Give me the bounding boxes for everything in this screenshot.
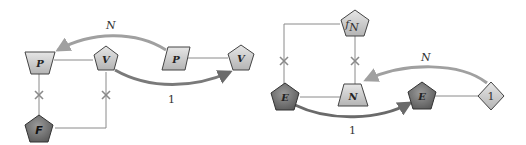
node-n-trapezoid[interactable]: N [338,84,368,106]
left-diagram: N 1 P V P V F [25,19,254,142]
edge-label-1: 1 [349,124,356,137]
svg-text:F: F [35,124,43,137]
node-fn-pentagon[interactable]: fN [341,10,369,36]
diagram-canvas: N 1 P V P V F [0,0,526,145]
edge-arrow-n [366,67,487,83]
connector-v-f [55,72,106,128]
edge-label-n: N [420,51,431,64]
edge-label-n: N [105,19,116,32]
svg-text:1: 1 [488,90,495,103]
node-p-parallelogram[interactable]: P [162,47,190,70]
connector-fn-e [284,24,340,85]
edge-label-1: 1 [168,93,175,106]
node-f-pentagon[interactable]: F [25,115,53,142]
svg-text:N: N [347,91,358,102]
node-e-pentagon-right[interactable]: E [408,82,436,109]
node-v-pentagon[interactable]: V [94,46,118,70]
node-v-pentagon-right[interactable]: V [228,45,254,70]
edge-arrow-n [58,36,166,50]
svg-text:E: E [280,92,289,103]
node-e-pentagon-left[interactable]: E [271,83,299,110]
svg-text:E: E [417,91,426,102]
edge-arrow-1 [115,70,230,85]
fn-subscript-text: N [348,21,359,34]
svg-text:P: P [171,54,180,65]
svg-text:V: V [237,53,246,64]
svg-text:P: P [35,58,44,69]
node-one-diamond[interactable]: 1 [478,82,504,110]
node-p-trapezoid[interactable]: P [25,52,55,74]
right-diagram: N 1 fN E N E 1 [271,10,504,137]
svg-text:V: V [102,54,111,65]
